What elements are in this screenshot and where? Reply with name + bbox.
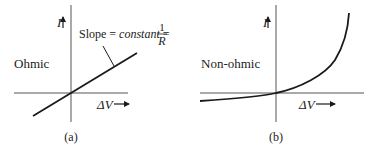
panel-b: I Non-ohmic ΔV (b)	[200, 5, 364, 144]
caption-a: (a)	[64, 130, 77, 144]
y-axis-label: I	[56, 15, 62, 30]
ohmic-label: Ohmic	[14, 56, 50, 71]
x-axis-label: ΔV	[96, 97, 115, 112]
fraction-numerator: 1	[159, 21, 165, 33]
y-axis-label: I	[262, 15, 268, 30]
panel-a: I Slope = constant = 1 R Ohmic ΔV (a)	[14, 5, 170, 144]
slope-annotation: Slope = constant =	[79, 27, 170, 41]
caption-b: (b)	[269, 130, 283, 144]
fraction-denominator: R	[157, 34, 166, 48]
ohmic-vs-nonohmic-diagram: I Slope = constant = 1 R Ohmic ΔV (a) I …	[0, 0, 374, 155]
nonohmic-label: Non-ohmic	[201, 56, 260, 71]
x-axis-label: ΔV	[298, 97, 317, 112]
slope-leader-line	[103, 46, 114, 66]
